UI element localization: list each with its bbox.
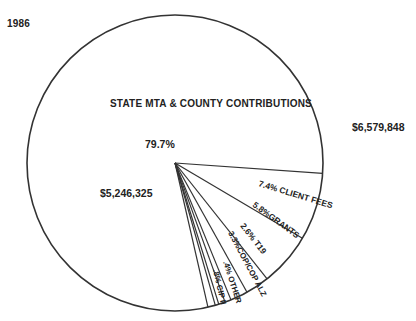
main-slice-title: STATE MTA & COUNTY CONTRIBUTIONS — [110, 98, 312, 109]
slice-label-client-fees: 7.4% CLIENT FEES — [257, 178, 334, 210]
main-slice-percent: 79.7% — [145, 138, 175, 150]
slice-label-grants: 5.8%GRANTS — [251, 200, 302, 241]
main-slice-amount: $5,246,325 — [100, 187, 153, 199]
pie-chart: 7.4% CLIENT FEES 5.8%GRANTS 2.6% T19 3.3… — [0, 0, 416, 321]
